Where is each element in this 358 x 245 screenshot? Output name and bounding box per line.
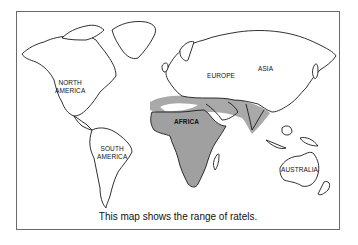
- madagascar-shape: [214, 154, 220, 170]
- new-guinea-shape: [300, 137, 318, 146]
- map-caption: This map shows the range of ratels.: [16, 211, 340, 222]
- label-asia: ASIA: [258, 65, 273, 73]
- label-africa: AFRICA: [174, 118, 199, 126]
- label-south-america-line2: AMERICA: [97, 153, 127, 161]
- borneo-shape: [282, 126, 292, 135]
- label-north-america: NORTH AMERICA: [55, 79, 85, 94]
- label-south-america-line1: SOUTH: [97, 145, 127, 153]
- british-isles-shape: [162, 63, 168, 72]
- arctic-islands-shape: [62, 25, 104, 40]
- southeast-asia-islands-shape: [266, 140, 286, 149]
- label-australia: AUSTRALIA: [281, 166, 318, 174]
- label-north-america-line2: AMERICA: [55, 87, 85, 95]
- south-america-shape: [90, 128, 132, 208]
- label-south-america: SOUTH AMERICA: [97, 145, 127, 160]
- new-zealand-shape: [318, 181, 330, 194]
- label-europe: EUROPE: [207, 72, 235, 80]
- label-north-america-line1: NORTH: [55, 79, 85, 87]
- north-america-shape: [22, 35, 116, 116]
- central-america-shape: [74, 116, 92, 130]
- greenland-shape: [112, 21, 156, 58]
